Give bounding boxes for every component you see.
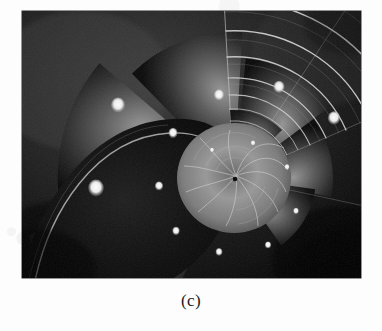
figure-caption: (c) — [0, 291, 382, 311]
nautilus-shell-svg — [22, 11, 361, 278]
nautilus-shell-photo — [22, 11, 361, 278]
figure-page: (c) — [0, 0, 382, 331]
